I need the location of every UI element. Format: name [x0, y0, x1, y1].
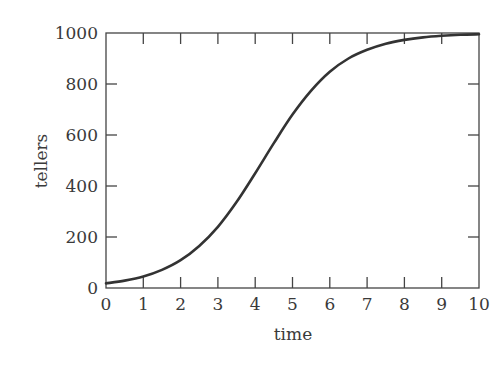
x-tick-label: 4	[250, 294, 261, 314]
plot-frame	[106, 33, 479, 288]
y-tick-label: 1000	[55, 23, 98, 43]
y-tick-label: 800	[66, 74, 98, 94]
x-tick-label: 2	[175, 294, 186, 314]
x-tick-label: 0	[101, 294, 112, 314]
y-tick-label: 200	[66, 227, 98, 247]
x-tick-label: 8	[399, 294, 410, 314]
x-tick-label: 6	[324, 294, 335, 314]
logistic-growth-chart: 012345678910 02004006008001000 time tell…	[0, 0, 503, 368]
x-tick-label: 1	[138, 294, 149, 314]
x-tick-label: 7	[362, 294, 373, 314]
y-axis-label: tellers	[31, 134, 51, 189]
y-axis-ticks: 02004006008001000	[55, 23, 479, 298]
y-tick-label: 0	[87, 278, 98, 298]
x-tick-label: 9	[436, 294, 447, 314]
x-tick-label: 3	[212, 294, 223, 314]
x-tick-label: 10	[468, 294, 490, 314]
tellers-curve	[106, 34, 479, 283]
y-tick-label: 600	[66, 125, 98, 145]
y-tick-label: 400	[66, 176, 98, 196]
x-tick-label: 5	[287, 294, 298, 314]
x-axis-label: time	[274, 324, 312, 344]
